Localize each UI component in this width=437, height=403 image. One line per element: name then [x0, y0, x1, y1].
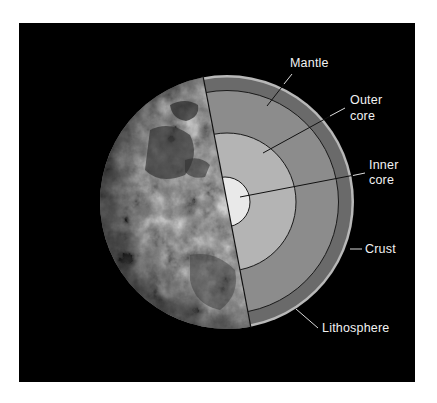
- label-crust: Crust: [365, 242, 396, 257]
- label-inner-core-2: core: [369, 173, 394, 188]
- label-mantle: Mantle: [290, 56, 329, 71]
- label-outer-core-2: core: [350, 109, 375, 124]
- inner-core-leader-outside: [353, 173, 365, 176]
- lithosphere-leader: [296, 309, 318, 328]
- mantle-leader-outside: [284, 74, 292, 84]
- label-outer-core-1: Outer: [350, 93, 382, 108]
- outer-core-leader-outside: [330, 108, 345, 116]
- label-inner-core-1: Inner: [369, 158, 399, 173]
- label-lithosphere: Lithosphere: [322, 321, 390, 336]
- earth-cutaway-diagram: [0, 0, 437, 403]
